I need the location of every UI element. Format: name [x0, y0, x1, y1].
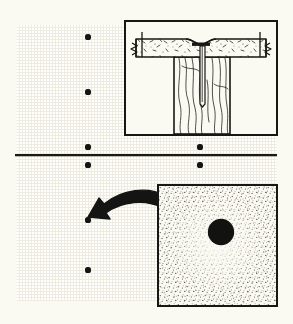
photo-detail-panel	[157, 184, 278, 307]
cross-section-detail-panel	[124, 20, 278, 136]
photo-detail-image	[159, 186, 276, 305]
cross-section-drawing	[126, 22, 276, 134]
nail-head	[192, 43, 210, 46]
nail-head-circle	[208, 219, 234, 245]
figure-canvas	[0, 0, 293, 324]
